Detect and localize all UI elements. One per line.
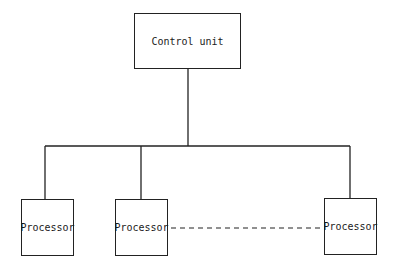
processor-box-2: Processor — [115, 199, 168, 256]
processor-label-2: Processor — [114, 222, 168, 234]
processor-box-1: Processor — [21, 199, 74, 256]
control-unit-label: Control unit — [151, 35, 223, 47]
processor-label-3: Processor — [323, 221, 377, 233]
processor-array-diagram: Control unit Processor Processor Process… — [0, 0, 396, 272]
processor-label-1: Processor — [20, 222, 74, 234]
processor-box-3: Processor — [324, 198, 377, 255]
control-unit-box: Control unit — [134, 13, 241, 69]
